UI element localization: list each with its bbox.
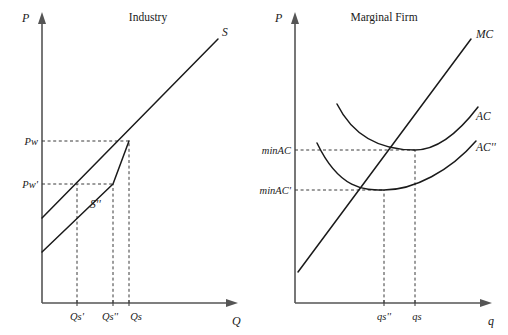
marginal-firm-curve-label-mc: MC [475, 28, 494, 40]
marginal-firm-panel: Marginal Firm P q MC AC AC'' minAC minAC… [254, 0, 508, 335]
marginal-firm-y-axis-label: P [274, 11, 283, 25]
marginal-firm-x-tick-label-qs-double-prime: qs'' [377, 311, 392, 322]
industry-x-axis-arrow-icon [226, 299, 238, 307]
marginal-firm-curve-label-ac-double-prime: AC'' [475, 141, 496, 153]
marginal-firm-y-value-minac: minAC [262, 145, 292, 156]
industry-curve-label-s: S [222, 26, 228, 38]
marginal-firm-y-axis-arrow-icon [291, 12, 299, 24]
marginal-firm-x-axis-label: q [488, 314, 494, 328]
industry-curve-label-s-double-prime: S'' [90, 198, 101, 210]
industry-supply-curve-s [42, 39, 218, 218]
industry-x-tick-label-qs-prime: Qs' [70, 311, 85, 322]
marginal-firm-y-value-minac-prime: minAC' [260, 185, 292, 196]
industry-y-axis-arrow-icon [38, 12, 46, 24]
industry-y-value-pw: Pw [24, 136, 38, 147]
marginal-firm-curve-label-ac: AC [475, 110, 491, 122]
marginal-firm-x-axis-arrow-icon [480, 299, 492, 307]
industry-y-value-pw-prime: Pw' [21, 179, 38, 190]
industry-x-tick-label-qs: Qs [130, 311, 142, 322]
industry-panel-title: Industry [129, 11, 168, 24]
marginal-firm-panel-title: Marginal Firm [350, 11, 417, 24]
economics-figure: Industry P Q S S'' Pw Pw' Qs' Qs'' Qs Ma… [0, 0, 508, 335]
industry-supply-curve-s-double-prime [42, 141, 129, 252]
marginal-firm-average-cost-curve [337, 104, 478, 150]
industry-panel: Industry P Q S S'' Pw Pw' Qs' Qs'' Qs [0, 0, 254, 335]
industry-y-axis-label: P [21, 11, 30, 25]
industry-x-axis-label: Q [232, 314, 241, 328]
industry-x-tick-label-qs-double-prime: Qs'' [102, 311, 119, 322]
marginal-firm-x-tick-label-qs: qs [412, 311, 421, 322]
